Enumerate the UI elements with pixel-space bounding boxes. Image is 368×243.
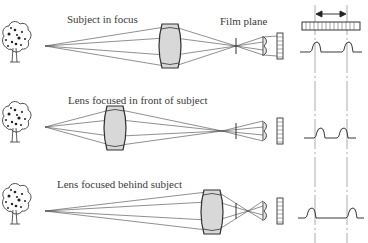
caption-back-focus: Lens focused behind subject: [57, 178, 182, 190]
caption-subject-in-focus: Subject in focus: [67, 13, 138, 25]
tree-icon: [3, 22, 31, 62]
af-module: [236, 33, 283, 59]
signal-graph-1: [300, 42, 362, 52]
lens: [104, 106, 126, 150]
row-back-focus: [3, 184, 364, 234]
lens: [201, 190, 223, 234]
reference-lines: [315, 5, 347, 243]
autofocus-diagram: Subject in focus Film plane Lens focused…: [0, 0, 368, 243]
tree-icon: [3, 184, 31, 224]
tree-icon: [3, 102, 31, 142]
line-sensor-bar: [302, 22, 360, 30]
signal-graph-3: [298, 208, 364, 218]
signal-graph-2: [304, 128, 356, 138]
film-plane-label: Film plane: [220, 15, 267, 27]
lens: [159, 24, 181, 68]
row-front-focus: [3, 102, 356, 150]
caption-front-focus: Lens focused in front of subject: [68, 94, 208, 106]
separation-arrow: [316, 11, 346, 17]
af-module: [236, 198, 283, 224]
